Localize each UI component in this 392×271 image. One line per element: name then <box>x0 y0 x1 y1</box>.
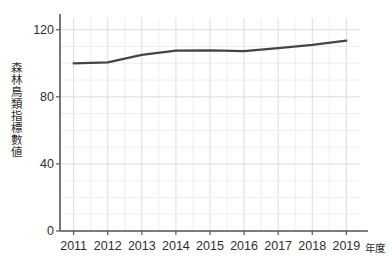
x-tick-label-2018: 2018 <box>298 240 326 253</box>
x-tick-label-2013: 2013 <box>128 240 156 253</box>
y-axis-tick-labels: 12080400 <box>18 0 54 271</box>
x-tick-label-2014: 2014 <box>162 240 190 253</box>
y-tick-label-40: 40 <box>20 158 54 171</box>
x-tick-label-2015: 2015 <box>196 240 224 253</box>
x-tick-label-2012: 2012 <box>94 240 122 253</box>
x-tick-label-2016: 2016 <box>230 240 258 253</box>
x-axis-title: 年度 <box>365 243 385 254</box>
y-tick-label-0: 0 <box>20 225 54 238</box>
y-tick-label-80: 80 <box>20 91 54 104</box>
x-tick-label-2017: 2017 <box>264 240 292 253</box>
forest-bird-index-line-chart: 森林鳥類指標數値 12080400 2011201220132014201520… <box>0 0 392 271</box>
y-tick-label-120: 120 <box>20 23 54 36</box>
plot-area <box>0 0 392 271</box>
axis-tick-marks <box>56 30 346 235</box>
x-tick-label-2019: 2019 <box>332 240 360 253</box>
x-tick-label-2011: 2011 <box>60 240 87 253</box>
